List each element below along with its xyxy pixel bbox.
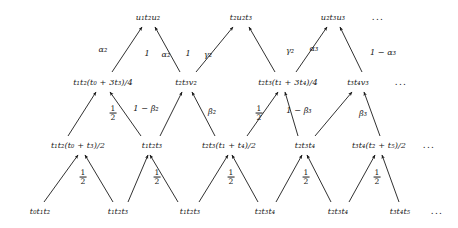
edge-weight-fraction: 12 bbox=[228, 169, 235, 186]
edge-arrow bbox=[68, 92, 96, 136]
edge-arrow bbox=[340, 27, 362, 72]
edge-arrow bbox=[249, 27, 275, 72]
fraction-numerator: 1 bbox=[80, 169, 87, 177]
fraction-numerator: 1 bbox=[374, 169, 381, 177]
edge-arrow bbox=[196, 27, 233, 72]
edge-arrow bbox=[199, 155, 228, 202]
node-label: t₁t₂(t₀ + t₃)/2 bbox=[51, 141, 105, 149]
node-label: t₀t₁t₂ bbox=[30, 207, 50, 215]
edge-arrow bbox=[85, 155, 113, 202]
edge-arrow bbox=[232, 155, 258, 202]
edge-weight-fraction: 12 bbox=[303, 169, 310, 186]
node-label: t₁t₂t₃ bbox=[142, 141, 162, 149]
edge-arrow bbox=[247, 92, 278, 136]
node-label: t₁t₂t₃ bbox=[180, 207, 200, 215]
node-label: t₃t₄(t₂ + t₅)/2 bbox=[352, 141, 406, 149]
node-label: t₂u₂t₃ bbox=[230, 13, 252, 21]
fraction-numerator: 1 bbox=[228, 169, 235, 177]
fraction-denominator: 2 bbox=[110, 113, 117, 122]
edge-arrow bbox=[128, 155, 148, 202]
fraction-numerator: 1 bbox=[303, 169, 310, 177]
edge-weight-label: β₃ bbox=[359, 109, 367, 117]
edge-arrow bbox=[315, 92, 352, 136]
fraction-denominator: 2 bbox=[303, 177, 310, 186]
edge-weight-label: α₂ bbox=[99, 45, 108, 53]
edge-weight-label: β₂ bbox=[208, 107, 216, 115]
edge-weight-label: 1 − β₂ bbox=[133, 104, 158, 112]
edge-weight-fraction: 12 bbox=[154, 169, 161, 186]
edge-weight-fraction: 12 bbox=[256, 105, 263, 122]
lattice-diagram: u₁t₂u₂t₂u₂t₃u₂t₃u₃...t₁t₂(t₀ + 3t₃)/4t₂t… bbox=[0, 0, 458, 228]
node-label: t₂t₃(t₁ + t₄)/2 bbox=[202, 141, 256, 149]
edge-arrow bbox=[349, 155, 375, 202]
node-label: t₂t₃t₄ bbox=[328, 207, 348, 215]
node-label: t₂t₃t₄ bbox=[255, 207, 275, 215]
node-label: t₃t₄v₃ bbox=[347, 78, 369, 86]
fraction-denominator: 2 bbox=[154, 177, 161, 186]
edges-group bbox=[44, 27, 399, 202]
fraction-denominator: 2 bbox=[374, 177, 381, 186]
edge-arrow bbox=[44, 155, 78, 202]
edge-weight-label: γ₂ bbox=[204, 50, 212, 58]
edge-arrow bbox=[276, 155, 302, 202]
fraction-denominator: 2 bbox=[228, 177, 235, 186]
edge-weight-label: α₃ bbox=[310, 44, 319, 52]
edge-weight-label: α₂ bbox=[162, 50, 171, 58]
node-label: t₂t₃v₂ bbox=[175, 78, 197, 86]
node-label: t₂t₃t₄ bbox=[295, 141, 315, 149]
edge-weight-label: 1 bbox=[185, 49, 190, 57]
node-ellipsis: ... bbox=[431, 207, 443, 216]
node-ellipsis: ... bbox=[395, 78, 407, 87]
node-ellipsis: ... bbox=[372, 13, 384, 22]
node-label: u₂t₃u₃ bbox=[321, 13, 345, 21]
node-ellipsis: ... bbox=[423, 141, 435, 150]
node-label: t₂t₃(t₁ + 3t₄)/4 bbox=[258, 78, 318, 86]
fraction-numerator: 1 bbox=[256, 105, 263, 113]
edge-weight-label: γ₂ bbox=[286, 46, 294, 54]
fraction-numerator: 1 bbox=[154, 169, 161, 177]
edge-weight-fraction: 12 bbox=[80, 169, 87, 186]
edge-weight-label: 1 − α₃ bbox=[370, 48, 396, 56]
edge-arrow bbox=[112, 27, 142, 72]
edge-arrow bbox=[160, 92, 182, 136]
edge-weight-fraction: 12 bbox=[374, 169, 381, 186]
fraction-numerator: 1 bbox=[110, 105, 117, 113]
edge-weight-label: 1 − β₃ bbox=[286, 106, 311, 114]
fraction-denominator: 2 bbox=[80, 177, 87, 186]
edge-weight-label: 1 bbox=[144, 49, 149, 57]
node-label: t₃t₄t₅ bbox=[390, 207, 410, 215]
node-label: t₁t₂t₃ bbox=[108, 207, 128, 215]
edge-arrow bbox=[307, 155, 331, 202]
node-label: t₁t₂(t₀ + 3t₃)/4 bbox=[73, 78, 133, 86]
edge-layer bbox=[0, 0, 458, 228]
edge-weight-fraction: 12 bbox=[110, 105, 117, 122]
node-label: u₁t₂u₂ bbox=[136, 13, 160, 21]
edge-arrow bbox=[382, 155, 399, 202]
fraction-denominator: 2 bbox=[256, 113, 263, 122]
